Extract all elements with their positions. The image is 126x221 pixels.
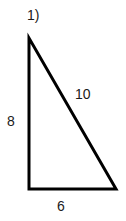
triangle-drawing [0,0,126,221]
right-triangle-figure: 1) 8 10 6 [0,0,126,221]
hypotenuse-length-label: 10 [75,87,91,101]
triangle-outline [29,38,116,189]
vertical-leg-length-label: 8 [7,114,15,128]
horizontal-leg-length-label: 6 [57,199,65,213]
problem-number-label: 1) [27,8,39,22]
